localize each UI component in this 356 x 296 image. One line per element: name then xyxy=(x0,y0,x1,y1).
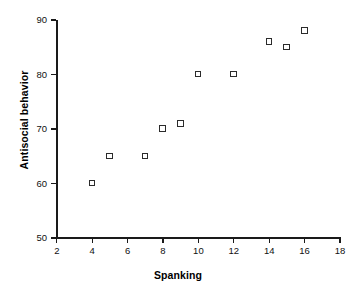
x-axis-tick xyxy=(56,238,57,243)
data-point-marker xyxy=(301,27,308,34)
x-axis-tick xyxy=(269,238,270,243)
data-point-marker xyxy=(195,71,202,78)
x-axis-tick xyxy=(127,238,128,243)
x-axis-tick-label: 12 xyxy=(219,246,249,256)
y-axis-title: Antisocial behavior xyxy=(18,15,30,225)
y-axis-tick xyxy=(51,128,56,129)
data-point-marker xyxy=(283,44,290,51)
x-axis-title: Spanking xyxy=(0,269,356,281)
data-point-marker xyxy=(142,153,149,160)
y-axis-line xyxy=(56,20,58,239)
data-point-marker xyxy=(177,120,184,127)
x-axis-tick-label: 16 xyxy=(290,246,320,256)
data-point-marker xyxy=(106,153,113,160)
x-axis-tick-label: 10 xyxy=(183,246,213,256)
y-axis-tick-label: 50 xyxy=(17,233,47,243)
x-axis-tick-label: 8 xyxy=(148,246,178,256)
x-axis-tick xyxy=(162,238,163,243)
data-point-marker xyxy=(230,71,237,78)
y-axis-tick xyxy=(51,183,56,184)
y-axis-tick xyxy=(51,74,56,75)
x-axis-tick xyxy=(198,238,199,243)
data-point-marker xyxy=(159,125,166,132)
x-axis-tick-label: 2 xyxy=(42,246,72,256)
x-axis-tick xyxy=(92,238,93,243)
x-axis-tick xyxy=(339,238,340,243)
scatter-plot-figure: 5060708090 24681012141618 Spanking Antis… xyxy=(0,0,356,296)
y-axis-tick xyxy=(51,19,56,20)
data-point-marker xyxy=(89,180,96,187)
data-point-marker xyxy=(266,38,273,45)
x-axis-tick xyxy=(304,238,305,243)
x-axis-tick xyxy=(233,238,234,243)
x-axis-tick-label: 18 xyxy=(325,246,355,256)
x-axis-tick-label: 6 xyxy=(113,246,143,256)
x-axis-tick-label: 14 xyxy=(254,246,284,256)
x-axis-tick-label: 4 xyxy=(77,246,107,256)
